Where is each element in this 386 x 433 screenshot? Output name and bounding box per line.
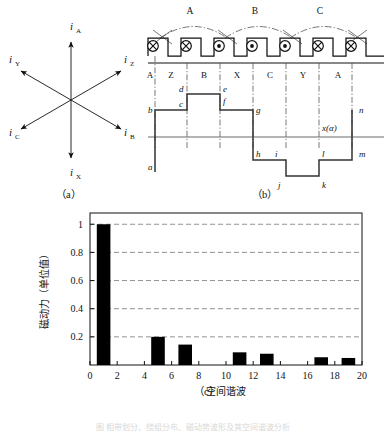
slot-conductors xyxy=(148,41,357,52)
panel-a-phasor-star: i A i Z i B i X i C i Y （a） xyxy=(0,0,150,205)
chart-xticklabel-8: 8 xyxy=(196,370,201,381)
phasor-star-svg: i A i Z i B i X i C i Y xyxy=(0,0,150,205)
coil-arc-A xyxy=(160,27,227,39)
panel-c-sublabel: （c） xyxy=(194,383,219,398)
label-i-X-symbol: i xyxy=(70,166,73,178)
mmf-label-d: d xyxy=(179,84,184,94)
label-i-Y-symbol: i xyxy=(9,53,12,65)
chart-yticklabel-4: 1 xyxy=(78,219,83,230)
coil-label-B: B xyxy=(252,6,258,16)
mmf-label-j: j xyxy=(277,180,281,190)
coil-labels: A B C xyxy=(187,6,324,16)
label-i-A-subscript: A xyxy=(76,27,81,35)
chart-xticklabel-4: 4 xyxy=(142,370,147,381)
coil-label-C: C xyxy=(317,6,323,16)
label-i-X-subscript: X xyxy=(76,173,81,181)
slot-1-conductor-cross xyxy=(148,41,159,52)
chart-y-axis-label: 磁动力（单位值） xyxy=(38,249,50,329)
slot-6-conductor-cross xyxy=(313,41,324,52)
mmf-label-m: m xyxy=(359,149,366,159)
panel-b-sublabel: （b） xyxy=(252,186,277,201)
mmf-label-f: f xyxy=(223,96,227,106)
chart-xticklabel-12: 12 xyxy=(248,370,258,381)
chart-xticklabel-0: 0 xyxy=(88,370,93,381)
slot-2-conductor-cross xyxy=(181,41,192,52)
chart-xticklabel-20: 20 xyxy=(357,370,367,381)
mmf-staircase-waveform xyxy=(155,94,352,176)
slot-3-conductor-dot xyxy=(214,41,225,52)
mmf-label-i: i xyxy=(275,149,278,159)
label-i-B-subscript: B xyxy=(130,133,135,141)
chart-xticklabel-14: 14 xyxy=(275,370,285,381)
mmf-axis-variable-label: x(α) xyxy=(321,123,337,133)
chart-yticklabel-3: 0.8 xyxy=(71,247,84,258)
panel-b-winding-mmf: A B C xyxy=(148,0,386,205)
chart-xticklabel-10: 10 xyxy=(221,370,231,381)
mmf-label-k: k xyxy=(322,180,327,190)
vector-i-Z xyxy=(71,71,121,100)
phasor-arrows xyxy=(21,42,121,158)
winding-mmf-svg: A B C xyxy=(148,0,386,205)
figure-bottom-caption: 图 相带划分、绕组分布、磁动势波形及其空间谐波分析 xyxy=(0,421,386,432)
slot-5-conductor-dot xyxy=(280,41,291,52)
chart-plot-frame xyxy=(90,213,362,365)
chart-bar-harmonic-11 xyxy=(233,352,247,365)
mmf-label-n: n xyxy=(359,105,364,115)
mmf-label-b: b xyxy=(148,105,153,115)
coil-arc-C xyxy=(290,27,357,39)
label-i-B-symbol: i xyxy=(124,126,127,138)
phase-band-label-6: Y xyxy=(300,70,307,80)
chart-bar-harmonic-5 xyxy=(151,337,165,365)
mmf-label-e: e xyxy=(223,84,227,94)
chart-yticklabel-2: 0.6 xyxy=(71,275,84,286)
chart-xticklabel-2: 2 xyxy=(115,370,120,381)
phase-band-label-5: C xyxy=(267,70,273,80)
label-i-Y-subscript: Y xyxy=(15,60,20,68)
label-i-Z-subscript: Z xyxy=(130,60,134,68)
coil-span-arcs xyxy=(160,27,357,39)
phase-band-label-3: B xyxy=(201,70,207,80)
coil-arc-B xyxy=(225,27,292,39)
slot-4-conductor-dot xyxy=(247,41,258,52)
phase-band-label-4: X xyxy=(234,70,241,80)
chart-bar-harmonic-13 xyxy=(260,354,274,365)
phase-band-letters: A Z B X C Y A xyxy=(147,70,342,80)
mmf-label-h: h xyxy=(256,149,261,159)
mmf-label-a: a xyxy=(148,162,153,172)
phase-band-label-7: A xyxy=(335,70,342,80)
panel-a-sublabel: （a） xyxy=(56,186,81,201)
chart-yticklabel-0: 0.2 xyxy=(71,331,84,342)
label-i-A-symbol: i xyxy=(70,20,73,32)
figure-root: i A i Z i B i X i C i Y （a） xyxy=(0,0,386,433)
chart-yticklabel-1: 0.4 xyxy=(71,303,84,314)
label-i-Z-symbol: i xyxy=(124,53,127,65)
label-i-C-subscript: C xyxy=(15,133,20,141)
chart-xticklabel-18: 18 xyxy=(330,370,340,381)
chart-bar-harmonic-17 xyxy=(314,357,328,365)
chart-bar-harmonic-7 xyxy=(178,345,192,365)
panel-c-harmonic-spectrum: 02468101214161820 0.20.40.60.81 空间谐波 磁动力… xyxy=(28,205,386,405)
vector-i-C xyxy=(21,100,71,129)
coil-label-A: A xyxy=(187,6,194,16)
mmf-label-g: g xyxy=(256,105,261,115)
vector-i-Y xyxy=(21,71,71,100)
chart-bar-harmonic-1 xyxy=(97,224,111,365)
harmonic-spectrum-chart: 02468101214161820 0.20.40.60.81 空间谐波 磁动力… xyxy=(28,205,386,405)
phase-band-label-1: A xyxy=(147,70,154,80)
chart-xticklabel-6: 6 xyxy=(169,370,174,381)
chart-xticklabel-16: 16 xyxy=(303,370,313,381)
chart-bar-harmonic-19 xyxy=(342,358,356,365)
vector-i-B xyxy=(71,100,121,129)
mmf-label-c: c xyxy=(179,99,183,109)
label-i-C-symbol: i xyxy=(9,126,12,138)
mmf-label-l: l xyxy=(322,149,325,159)
phase-band-label-2: Z xyxy=(168,70,174,80)
slot-7-conductor-cross xyxy=(346,41,357,52)
